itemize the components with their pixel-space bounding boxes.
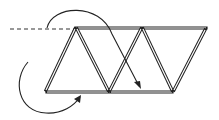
stick-diag-4 <box>143 29 172 90</box>
stick-diag-1 <box>46 29 75 90</box>
bottom-arc-arrow <box>19 62 81 113</box>
top-arc-arrow <box>47 10 141 89</box>
matchstick-triangles-diagram <box>0 0 219 120</box>
arrowhead-icon <box>134 81 141 89</box>
arrowhead-icon <box>74 95 81 103</box>
stick-diag-2 <box>77 29 108 90</box>
stick-diag-5 <box>174 30 205 90</box>
